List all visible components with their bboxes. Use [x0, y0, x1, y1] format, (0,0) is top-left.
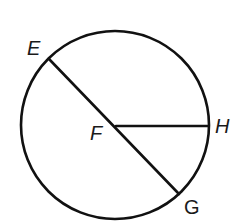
point-label-e: E [27, 37, 41, 59]
point-label-h: H [215, 115, 230, 137]
point-label-f: F [90, 122, 104, 144]
circle-diagram: E F H G [0, 0, 240, 222]
point-label-g: G [184, 196, 200, 218]
